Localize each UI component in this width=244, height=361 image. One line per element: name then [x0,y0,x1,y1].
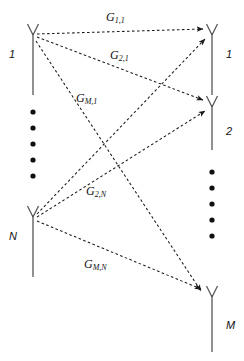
rx-antenna-2 [207,96,218,150]
gain-label-gm1-symbol: G [76,91,85,105]
channel-line-g21 [37,37,203,100]
gain-label-g21-subscript: 2,1 [119,54,129,63]
gain-label-gmn: GM,N [84,258,107,270]
tx-antenna-1 [28,24,39,95]
gain-label-g2n-symbol: G [86,184,95,198]
channel-line-g11 [37,29,203,34]
rx-antenna-2-label: 2 [226,126,232,137]
gain-label-g2n-subscript: 2,N [95,190,106,199]
gain-label-g11-subscript: 1,1 [115,16,125,25]
gain-label-g11: G1,1 [106,11,125,23]
rx-ellipsis-dots [209,169,214,238]
channel-line-gmn [37,221,201,289]
gain-label-g21: G2,1 [110,49,129,61]
rx-antenna-1 [207,24,218,95]
gain-label-gm1-subscript: M,1 [85,97,98,106]
tx-ellipsis-dots [30,109,35,178]
gain-label-g2n: G2,N [86,185,106,197]
gain-label-gm1: GM,1 [76,92,97,104]
rx-antenna-m-label: M [226,320,235,331]
gain-label-gmn-subscript: M,N [93,263,107,272]
rx-antenna-m [207,286,218,352]
gain-label-gmn-symbol: G [84,257,93,271]
rx-antenna-1-label: 1 [226,49,232,60]
tx-antenna-1-label: 1 [9,49,15,60]
gain-label-g11-symbol: G [106,10,115,24]
mimo-channel-diagram: 1 N 1 2 M G1,1 G2,1 GM,1 G2,N GM,N [0,0,244,361]
channel-line-g1n [37,39,205,214]
gain-label-g21-symbol: G [110,48,119,62]
tx-antenna-n-label: N [9,231,17,242]
